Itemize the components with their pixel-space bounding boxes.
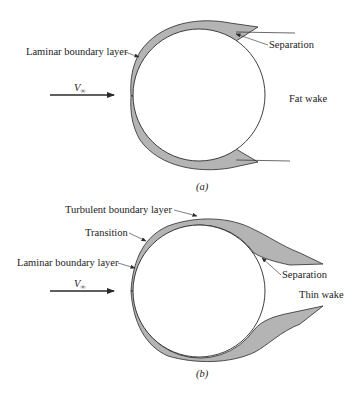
caption-a: (a) (196, 181, 209, 193)
figure-a: Laminar boundary layer Separation Fat wa… (26, 21, 328, 193)
transition-leader-b (129, 233, 146, 241)
cylinder-b (133, 225, 265, 357)
separation-label-b: Separation (282, 269, 328, 280)
velocity-label-a: V∞ (74, 82, 85, 95)
figure-b: Turbulent boundary layer Transition Lami… (17, 204, 344, 380)
turbulent-leader-b (174, 210, 197, 216)
laminar-leader-b (118, 263, 135, 268)
wake-label-a: Fat wake (289, 93, 328, 104)
turbulent-label-b: Turbulent boundary layer (65, 204, 172, 215)
laminar-label-b: Laminar boundary layer (17, 257, 119, 268)
cylinder-a (133, 29, 265, 161)
boundary-layer-diagram: Laminar boundary layer Separation Fat wa… (0, 0, 360, 404)
separation-label-a: Separation (269, 39, 315, 50)
caption-b: (b) (196, 368, 209, 380)
transition-label-b: Transition (85, 227, 129, 238)
wake-label-b: Thin wake (299, 289, 344, 300)
laminar-label-a: Laminar boundary layer (26, 46, 128, 57)
velocity-label-b: V∞ (74, 278, 85, 291)
